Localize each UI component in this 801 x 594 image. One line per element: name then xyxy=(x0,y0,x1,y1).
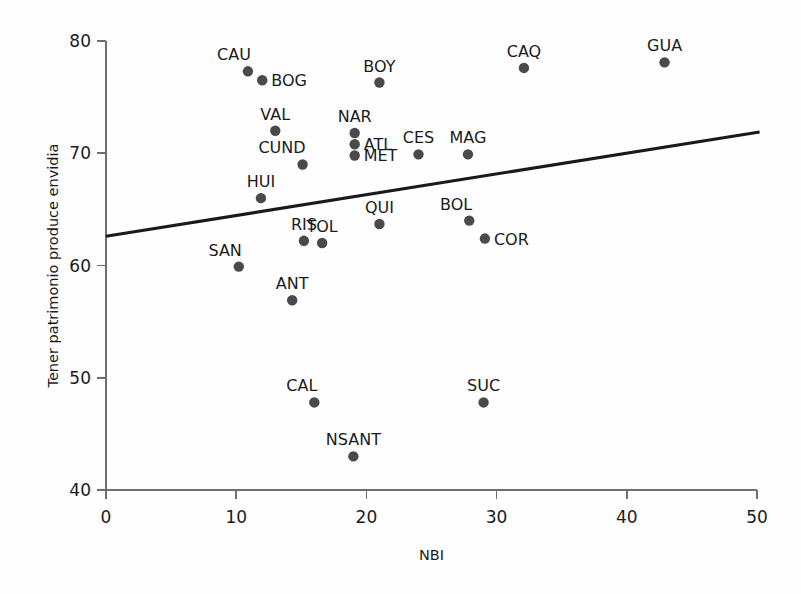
data-point-label: SUC xyxy=(467,376,500,395)
x-axis-tick-label: 50 xyxy=(746,507,768,527)
data-point-label: CAQ xyxy=(507,42,541,61)
y-axis-title: Tener patrimonio produce envidia xyxy=(45,144,61,389)
data-point-marker xyxy=(317,238,327,248)
data-point-label: COR xyxy=(494,230,529,249)
data-point-label: SAN xyxy=(208,241,241,260)
data-point-marker xyxy=(349,128,359,138)
data-point-label: NSANT xyxy=(326,430,381,449)
data-point-label: HUI xyxy=(247,172,275,191)
regression-line xyxy=(106,132,760,236)
data-point-label: CAU xyxy=(217,45,251,64)
x-axis-title: NBI xyxy=(419,547,444,563)
plot-canvas: 405060708001020304050 CAUBOGVALCUNDHUISA… xyxy=(0,0,801,594)
data-point-marker xyxy=(309,397,319,407)
x-axis-tick-label: 30 xyxy=(486,507,508,527)
data-point-label: QUI xyxy=(365,198,394,217)
data-point-marker xyxy=(257,75,267,85)
data-point-label: CES xyxy=(403,128,434,147)
data-point-marker xyxy=(349,150,359,160)
data-point-marker xyxy=(256,193,266,203)
data-point-label: TOL xyxy=(305,217,337,236)
x-axis-tick-label: 20 xyxy=(356,507,378,527)
data-point-marker xyxy=(243,66,253,76)
data-point-marker xyxy=(270,126,280,136)
data-point-label: BOL xyxy=(440,195,472,214)
data-point-marker xyxy=(659,57,669,67)
y-axis-tick-label: 40 xyxy=(69,480,91,500)
data-point-label: MET xyxy=(364,146,398,165)
y-axis-tick-label: 70 xyxy=(69,143,91,163)
data-point-marker xyxy=(463,149,473,159)
data-points: CAUBOGVALCUNDHUISANANTRISTOLCALNSANTNARA… xyxy=(208,36,682,461)
data-point-label: CAL xyxy=(286,376,317,395)
data-point-marker xyxy=(348,451,358,461)
data-point-marker xyxy=(519,63,529,73)
data-point-label: VAL xyxy=(260,105,290,124)
y-axis-tick-label: 80 xyxy=(69,31,91,51)
x-axis-tick-label: 40 xyxy=(616,507,638,527)
data-point-marker xyxy=(374,77,384,87)
data-point-label: BOG xyxy=(271,71,307,90)
data-point-marker xyxy=(413,149,423,159)
y-axis-tick-label: 50 xyxy=(69,368,91,388)
x-axis-tick-label: 10 xyxy=(225,507,247,527)
data-point-marker xyxy=(480,233,490,243)
data-point-marker xyxy=(287,295,297,305)
y-axis-tick-label: 60 xyxy=(69,256,91,276)
data-point-marker xyxy=(297,159,307,169)
data-point-marker xyxy=(478,397,488,407)
data-point-marker xyxy=(349,139,359,149)
data-point-label: CUND xyxy=(258,138,305,157)
data-point-label: GUA xyxy=(647,36,682,55)
data-point-label: MAG xyxy=(450,128,487,147)
x-axis-tick-label: 0 xyxy=(101,507,112,527)
data-point-marker xyxy=(299,236,309,246)
data-point-marker xyxy=(464,215,474,225)
data-point-label: ANT xyxy=(276,274,309,293)
data-point-marker xyxy=(374,219,384,229)
data-point-marker xyxy=(234,261,244,271)
data-point-label: NAR xyxy=(338,107,372,126)
scatter-plot-figure: 405060708001020304050 CAUBOGVALCUNDHUISA… xyxy=(0,0,801,594)
axes: 405060708001020304050 xyxy=(69,31,767,527)
trend-line xyxy=(106,132,760,236)
data-point-label: BOY xyxy=(363,57,395,76)
